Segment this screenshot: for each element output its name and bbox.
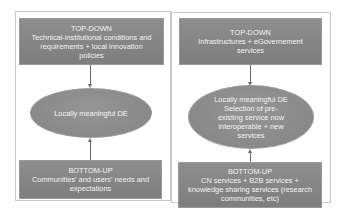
- left-bottom-up-line-2: expectations: [70, 184, 112, 193]
- left-ellipse-line-1: Locally meaningful DE: [54, 109, 128, 118]
- left-top-connector: [90, 65, 91, 84]
- right-bottom-up-line-1: CN services + B2B services +: [201, 176, 299, 185]
- right-bottom-connector: [250, 153, 251, 162]
- right-bottom-up-title: BOTTOM-UP: [228, 167, 272, 176]
- right-bottom-up-box: BOTTOM-UP CN services + B2B services + k…: [178, 162, 322, 208]
- left-bottom-connector: [90, 142, 91, 160]
- right-ellipse-line-2: Selection of pre-: [224, 104, 278, 113]
- right-bottom-up-line-2: knowledge sharing services (research: [188, 185, 312, 194]
- left-bottom-up-box: BOTTOM-UP Communities' and users' needs …: [19, 160, 162, 199]
- left-bottom-up-title: BOTTOM-UP: [68, 166, 112, 175]
- left-top-down-box: TOP-DOWN Technical-institutional conditi…: [19, 18, 164, 65]
- left-locally-meaningful-ellipse: Locally meaningful DE: [30, 88, 152, 138]
- right-ellipse-line-3: existing service now: [218, 113, 284, 122]
- left-top-down-line-2: requirements + local innovation: [40, 42, 143, 51]
- left-top-down-title: TOP-DOWN: [71, 24, 112, 33]
- left-bottom-up-line-1: Communities' and users' needs and: [32, 175, 149, 184]
- right-top-down-line-2: services: [237, 46, 264, 55]
- right-top-down-title: TOP-DOWN: [230, 28, 271, 37]
- right-top-down-line-1: Infrastructures + eGovernement: [198, 37, 303, 46]
- right-bottom-up-line-3: communities, etc): [221, 194, 279, 203]
- right-locally-meaningful-ellipse: Locally meaningful DE Selection of pre- …: [188, 85, 314, 149]
- right-ellipse-line-1: Locally meaningful DE: [214, 95, 288, 104]
- right-top-connector: [250, 65, 251, 83]
- right-top-down-box: TOP-DOWN Infrastructures + eGovernement …: [179, 18, 322, 65]
- right-ellipse-line-4: interoperable + new: [218, 122, 283, 131]
- left-top-down-line-3: policies: [79, 51, 104, 60]
- left-top-down-line-1: Technical-institutional conditions and: [32, 33, 152, 42]
- right-ellipse-line-5: services: [237, 131, 264, 140]
